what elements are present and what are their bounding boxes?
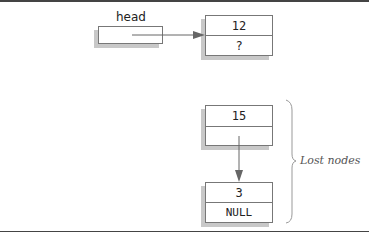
bottom-rule bbox=[0, 231, 369, 232]
arrow-node-15-to-node-3 bbox=[235, 136, 243, 182]
lost-nodes-label: Lost nodes bbox=[300, 154, 360, 167]
arrow-head-to-node-12 bbox=[132, 31, 205, 39]
brace-icon bbox=[286, 100, 296, 223]
connectors bbox=[0, 0, 369, 238]
